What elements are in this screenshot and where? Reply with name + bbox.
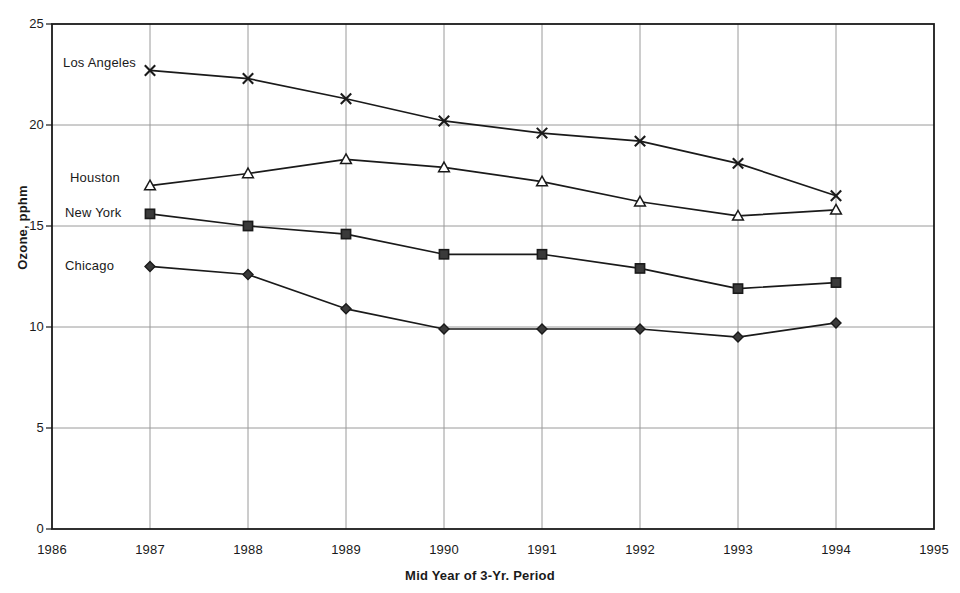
plot-area [0,0,960,593]
marker-open-triangle [341,154,352,164]
x-axis-tick-label: 1989 [316,543,376,556]
ozone-trend-chart: Ozone, pphm Mid Year of 3-Yr. Period 051… [0,0,960,593]
x-axis-title: Mid Year of 3-Yr. Period [0,568,960,583]
series-label-los-angeles: Los Angeles [63,56,136,69]
series-label-houston: Houston [70,171,120,184]
x-axis-tick-label: 1993 [708,543,768,556]
marker-filled-diamond [145,261,155,271]
x-axis-tick-label: 1991 [512,543,572,556]
y-axis-tick-label: 5 [0,421,44,434]
series-los-angeles [145,65,841,201]
x-axis-tick-label: 1988 [218,543,278,556]
x-axis-tick-label: 1986 [22,543,82,556]
y-axis-tick-label: 15 [0,219,44,232]
marker-filled-square [831,278,840,287]
series-label-chicago: Chicago [65,259,114,272]
y-axis-tick-label: 20 [0,118,44,131]
marker-filled-diamond [243,269,253,279]
y-axis-tick-label: 0 [0,522,44,535]
series-label-new-york: New York [65,206,122,219]
marker-filled-diamond [733,332,743,342]
marker-filled-diamond [439,324,449,334]
marker-filled-square [733,284,742,293]
marker-filled-diamond [341,304,351,314]
marker-filled-square [145,209,154,218]
series-chicago [145,261,841,342]
x-axis-tick-label: 1994 [806,543,866,556]
series-new-york [145,209,840,293]
marker-filled-square [439,250,448,259]
plot-border [52,24,934,529]
x-axis-tick-label: 1990 [414,543,474,556]
x-axis-tick-label: 1987 [120,543,180,556]
marker-filled-square [341,229,350,238]
marker-filled-square [243,221,252,230]
y-axis-tick-label: 25 [0,17,44,30]
marker-filled-square [537,250,546,259]
x-axis-tick-label: 1992 [610,543,670,556]
marker-filled-diamond [537,324,547,334]
series-line [150,266,836,337]
marker-filled-square [635,264,644,273]
x-axis-tick-label: 1995 [904,543,960,556]
marker-filled-diamond [831,318,841,328]
marker-filled-diamond [635,324,645,334]
y-axis-tick-label: 10 [0,320,44,333]
